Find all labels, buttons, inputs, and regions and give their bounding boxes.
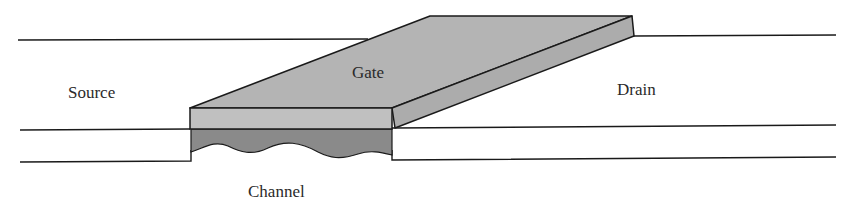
source-top-line xyxy=(18,39,368,40)
drain-middle-line xyxy=(392,125,836,128)
gate-front-face xyxy=(190,108,392,129)
drain-bottom-line xyxy=(392,150,836,160)
mosfet-diagram: Source Gate Drain Channel xyxy=(0,0,857,210)
source-label: Source xyxy=(68,83,115,102)
source-middle-line xyxy=(20,129,190,130)
drain-label: Drain xyxy=(617,80,656,99)
drain-top-line xyxy=(634,35,836,36)
channel-label: Channel xyxy=(248,182,305,201)
source-bottom-line xyxy=(20,150,191,162)
gate-label: Gate xyxy=(352,63,384,82)
channel-region xyxy=(191,129,392,158)
